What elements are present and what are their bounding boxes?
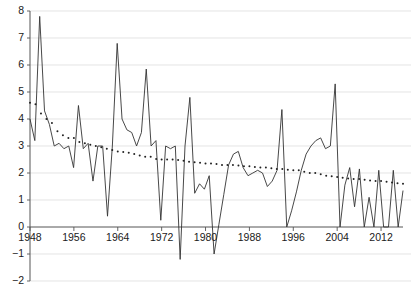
trend-dot — [188, 161, 190, 163]
y-tick-label: −1 — [2, 248, 24, 259]
trend-dot — [144, 156, 146, 158]
trend-dot — [281, 168, 283, 170]
trend-dot — [95, 145, 97, 147]
trend-dot — [78, 141, 80, 143]
trend-dot — [172, 159, 174, 161]
trend-dot — [51, 122, 53, 124]
trend-dot — [243, 165, 245, 167]
trend-dot — [210, 163, 212, 165]
trend-dot — [89, 144, 91, 146]
trend-dot — [133, 153, 135, 155]
trend-dot — [320, 173, 322, 175]
trend-dot — [150, 156, 152, 158]
x-tick-label: 1980 — [186, 232, 226, 243]
trend-dot — [183, 160, 185, 162]
trend-dot — [391, 181, 393, 183]
data-series-line — [30, 16, 403, 259]
trend-dot — [369, 180, 371, 182]
y-tick-label: 3 — [2, 140, 24, 151]
trend-dot — [314, 172, 316, 174]
trend-dot — [375, 180, 377, 182]
y-tick-label: 2 — [2, 167, 24, 178]
trend-dot — [353, 178, 355, 180]
trend-dot — [226, 164, 228, 166]
x-tick-label: 2012 — [361, 232, 401, 243]
trend-dot — [309, 172, 311, 174]
chart-figure: 876543210−1−2 19481956196419721980198819… — [0, 0, 417, 295]
trend-dot — [364, 179, 366, 181]
x-tick-label: 1996 — [273, 232, 313, 243]
trend-dot — [325, 175, 327, 177]
trend-dot — [34, 103, 36, 105]
trend-dot — [100, 146, 102, 148]
trend-dot — [292, 169, 294, 171]
x-tick-label: 1988 — [229, 232, 269, 243]
trend-dot — [336, 176, 338, 178]
trend-dot — [106, 148, 108, 150]
trend-dot — [347, 177, 349, 179]
trend-dot — [265, 167, 267, 169]
trend-dot — [380, 180, 382, 182]
trend-dot — [40, 113, 42, 115]
trend-dot — [117, 150, 119, 152]
trend-dot — [358, 178, 360, 180]
trend-dot — [161, 159, 163, 161]
trend-dot — [386, 181, 388, 183]
trend-dot — [254, 166, 256, 168]
trend-dot — [194, 161, 196, 163]
y-tick-label: 8 — [2, 5, 24, 16]
trend-dot — [397, 182, 399, 184]
trend-dot — [342, 177, 344, 179]
trend-dot — [259, 167, 261, 169]
x-tick-label: 1948 — [10, 232, 50, 243]
trend-dot — [303, 171, 305, 173]
trend-dot — [216, 163, 218, 165]
trend-dot — [67, 137, 69, 139]
trend-dot — [248, 165, 250, 167]
trend-dot — [221, 164, 223, 166]
trend-dot — [56, 130, 58, 132]
y-tick-label: −2 — [2, 275, 24, 286]
x-tick-label: 1956 — [54, 232, 94, 243]
trend-dot — [111, 149, 113, 151]
trend-dot — [205, 163, 207, 165]
y-tick-label: 5 — [2, 86, 24, 97]
trend-dot — [298, 169, 300, 171]
trend-dot — [45, 118, 47, 120]
trend-dot — [287, 169, 289, 171]
trend-dot — [73, 137, 75, 139]
trend-dot — [166, 159, 168, 161]
trend-dot — [237, 164, 239, 166]
trend-dot — [155, 158, 157, 160]
trend-dot — [122, 151, 124, 153]
trend-dot — [128, 152, 130, 154]
y-tick-label: 6 — [2, 59, 24, 70]
y-tick-label: 1 — [2, 194, 24, 205]
trend-dot — [62, 134, 64, 136]
trend-line-dots — [29, 102, 404, 185]
trend-dot — [29, 102, 31, 104]
trend-dot — [139, 154, 141, 156]
trend-dot — [177, 159, 179, 161]
trend-dot — [331, 175, 333, 177]
trend-dot — [199, 162, 201, 164]
trend-dot — [232, 164, 234, 166]
y-tick-label: 4 — [2, 113, 24, 124]
trend-dot — [270, 167, 272, 169]
trend-dot — [402, 183, 404, 185]
y-tick-label: 7 — [2, 32, 24, 43]
x-tick-label: 1972 — [142, 232, 182, 243]
trend-dot — [276, 168, 278, 170]
trend-dot — [84, 142, 86, 144]
x-tick-label: 2004 — [317, 232, 357, 243]
line-chart-canvas — [0, 0, 417, 295]
x-tick-label: 1964 — [98, 232, 138, 243]
